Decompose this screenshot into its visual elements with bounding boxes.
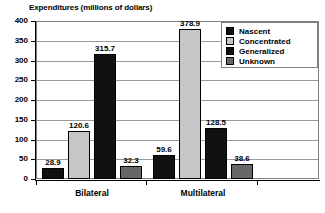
legend-label: Unknown [239, 57, 275, 66]
legend-swatch-icon [226, 47, 234, 55]
x-tick-mark [36, 181, 37, 185]
legend-item[interactable]: Unknown [226, 56, 313, 66]
bar [231, 164, 253, 179]
legend-label: Generalized [239, 47, 284, 56]
y-tick-label: 350 [0, 37, 28, 45]
y-tick-label: 100 [0, 136, 28, 144]
bar [120, 166, 142, 179]
bar [42, 168, 64, 179]
gridline [37, 80, 318, 81]
legend-swatch-icon [226, 57, 234, 65]
y-tick-label: 0 [0, 175, 28, 183]
y-tick-mark [31, 120, 36, 121]
y-tick-mark [31, 179, 36, 180]
legend-item[interactable]: Generalized [226, 46, 313, 56]
bar-value-label: 128.5 [197, 118, 235, 127]
bar [68, 131, 90, 179]
legend-item[interactable]: Concentrated [226, 36, 313, 46]
legend-label: Nascent [239, 27, 270, 36]
x-axis-group-label: Multilateral [143, 188, 263, 198]
bar-value-label: 28.9 [34, 158, 72, 167]
bar-value-label: 32.3 [112, 156, 150, 165]
y-tick-label: 300 [0, 57, 28, 65]
bar [153, 155, 175, 179]
y-tick-mark [31, 80, 36, 81]
y-tick-mark [31, 140, 36, 141]
y-tick-mark [31, 21, 36, 22]
y-tick-label: 400 [0, 17, 28, 25]
legend-swatch-icon [226, 27, 234, 35]
y-tick-label: 250 [0, 76, 28, 84]
legend-swatch-icon [226, 37, 234, 45]
bar-value-label: 315.7 [86, 44, 124, 53]
bar-value-label: 120.6 [60, 121, 98, 130]
gridline [37, 100, 318, 101]
y-tick-mark [31, 61, 36, 62]
bar [179, 29, 201, 179]
bar-value-label: 378.9 [171, 19, 209, 28]
bar-value-label: 38.6 [223, 154, 261, 163]
y-tick-label: 150 [0, 116, 28, 124]
x-axis-line [35, 180, 320, 181]
y-tick-mark [31, 100, 36, 101]
bar-value-label: 59.6 [145, 145, 183, 154]
chart-title: Expenditures (millions of dollars) [29, 3, 152, 12]
y-tick-label: 50 [0, 155, 28, 163]
y-tick-label: 200 [0, 96, 28, 104]
legend-item[interactable]: Nascent [226, 26, 313, 36]
bar-chart: Expenditures (millions of dollars) 40035… [0, 0, 325, 213]
y-tick-mark [31, 41, 36, 42]
x-tick-mark [257, 181, 258, 185]
x-tick-mark [146, 181, 147, 185]
legend: NascentConcentratedGeneralizedUnknown [221, 22, 318, 68]
legend-label: Concentrated [239, 37, 291, 46]
x-axis-group-label: Bilateral [32, 188, 152, 198]
